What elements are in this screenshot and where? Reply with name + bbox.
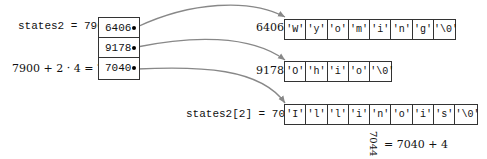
pointer-dot-icon <box>132 26 136 30</box>
string-wyoming: 'W''y''o''m''i''n''g''\0' <box>284 19 456 40</box>
base-address-label: states2 = 7900 <box>18 19 110 32</box>
char-cell: 'n' <box>370 105 391 124</box>
char-cell: '\0' <box>434 20 455 39</box>
string-address-label: 9178 <box>256 64 284 77</box>
base-address-text: states2 = 7900 <box>18 20 110 32</box>
string-address-label: 6406 <box>256 21 284 34</box>
char-cell: 'I' <box>285 105 306 124</box>
pointer-array: 6406 9178 7040 <box>98 17 140 80</box>
char-cell: 'h' <box>306 62 327 81</box>
string-illinois: 'I''l''l''i''n''o''i''s''\0' <box>284 104 478 125</box>
pointer-value: 9178 <box>105 42 131 54</box>
char-cell: 'O' <box>285 62 306 81</box>
char-cell: '\0' <box>455 105 476 124</box>
string-ohio: 'O''h''i''o''\0' <box>284 61 392 82</box>
char-cell: 'W' <box>285 20 306 39</box>
char-cell: 'l' <box>328 105 349 124</box>
pointer-cell: 6406 <box>99 18 139 38</box>
char-cell: 'i' <box>349 105 370 124</box>
char-cell: 'o' <box>328 20 349 39</box>
rotated-address-label: 7044 <box>368 131 379 156</box>
pointer-cell: 9178 <box>99 38 139 58</box>
pointer-dot-icon <box>132 66 136 70</box>
char-cell: 'i' <box>328 62 349 81</box>
char-cell: 'm' <box>349 20 370 39</box>
arrow-to-ohio <box>137 39 285 60</box>
char-cell: 'n' <box>391 20 412 39</box>
pointer-value: 6406 <box>105 22 131 34</box>
pointer-cell: 7040 <box>99 58 139 79</box>
char-cell: 'i' <box>413 105 434 124</box>
char-cell: 'y' <box>306 20 327 39</box>
pointer-dot-icon <box>132 46 136 50</box>
element-address-text: states2[2] = 7040 <box>186 108 298 120</box>
char-cell: 's' <box>434 105 455 124</box>
char-cell: 'o' <box>349 62 370 81</box>
pointer-value: 7040 <box>105 62 131 74</box>
rotated-address-expression: = 7040 + 4 <box>384 138 448 151</box>
element-address-label: states2[2] = 7040 <box>186 107 298 120</box>
char-cell: 'g' <box>413 20 434 39</box>
char-cell: '\0' <box>370 62 391 81</box>
char-cell: 'o' <box>391 105 412 124</box>
char-cell: 'i' <box>370 20 391 39</box>
char-cell: 'l' <box>306 105 327 124</box>
